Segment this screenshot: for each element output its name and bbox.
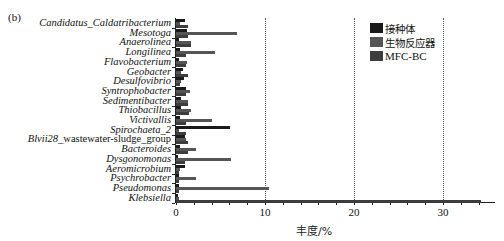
legend-swatch [370,37,383,47]
gridline [354,18,355,202]
bar [176,126,230,129]
bar [176,83,180,86]
x-axis-label: 丰度/% [296,222,332,238]
x-tick-label: 0 [173,206,179,218]
legend-swatch [370,51,383,61]
bar [176,141,188,144]
bar [176,132,186,135]
bar [176,122,186,125]
bar [176,161,185,164]
legend-item: 接种体 [370,21,435,35]
bar [176,64,186,67]
bar [176,93,186,96]
x-tick-label: 10 [260,206,271,218]
legend-swatch [370,23,383,33]
bar [176,54,186,57]
bar [176,74,188,77]
bar [176,200,481,203]
gridline [443,18,444,202]
legend-label: MFC-BC [385,50,427,62]
panel-label: (b) [8,11,21,23]
abundance-bar-chart: (b) Candidatus_CaldatribacteriumMesotoga… [0,0,504,241]
bar [176,103,188,106]
x-tick-label: 20 [349,206,360,218]
bar [176,44,191,47]
bar [176,171,179,174]
gridline [265,18,266,202]
bar [176,151,188,154]
legend-item: MFC-BC [370,49,435,63]
legend: 接种体生物反应器MFC-BC [370,21,435,63]
bar [176,190,179,193]
legend-label: 接种体 [385,21,415,36]
bar [176,187,269,190]
bar [176,35,188,38]
bar [176,180,179,183]
legend-label: 生物反应器 [385,35,435,50]
bar [176,25,188,28]
x-tick-label: 30 [438,206,449,218]
legend-item: 生物反应器 [370,35,435,49]
bar [176,112,189,115]
bar [176,177,196,180]
category-label: Klebsiella [128,193,171,203]
